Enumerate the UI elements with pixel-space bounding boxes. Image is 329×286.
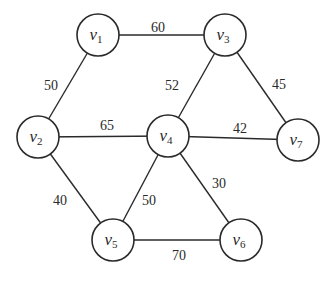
node-v6: v6: [220, 219, 262, 261]
edge-weight-v3-v7: 45: [272, 77, 286, 92]
node-v7: v7: [277, 119, 319, 161]
node-v1: v1: [77, 14, 119, 56]
weighted-graph-diagram: 60506552454240503070 v1v2v3v4v5v6v7: [0, 0, 329, 286]
edge-weight-v5-v6: 70: [172, 248, 186, 263]
edge-weight-v2-v5: 40: [53, 193, 67, 208]
edge-weight-v4-v5: 50: [142, 193, 156, 208]
edge-weight-v1-v3: 60: [151, 20, 165, 35]
edge-weight-v4-v7: 42: [233, 121, 247, 136]
edge-weight-v3-v4: 52: [165, 78, 179, 93]
node-v2: v2: [17, 116, 59, 158]
edge-weight-v4-v6: 30: [212, 176, 226, 191]
edge-weight-v2-v4: 65: [100, 118, 114, 133]
edge-weight-v1-v2: 50: [44, 78, 58, 93]
node-v3: v3: [204, 14, 246, 56]
node-v5: v5: [92, 219, 134, 261]
node-v4: v4: [147, 115, 189, 157]
